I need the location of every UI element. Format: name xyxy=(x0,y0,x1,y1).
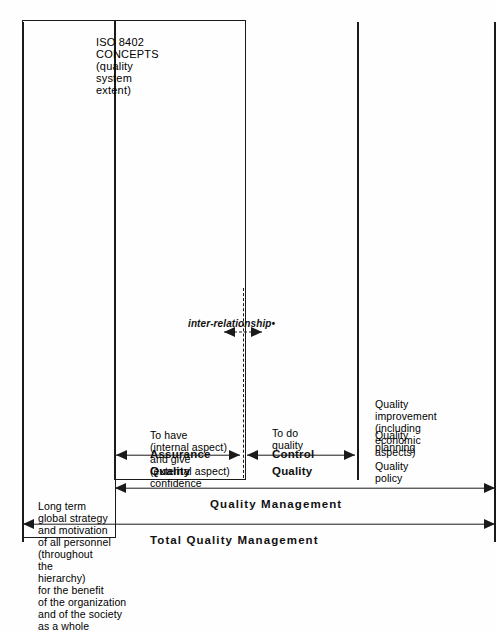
quality-control-text: To do quality xyxy=(272,427,303,451)
outer-frame-bottom-rule xyxy=(494,22,496,542)
tqm-content-text: Long term global strategy and motivation… xyxy=(38,500,126,632)
total-quality-management-label: Total Quality Management xyxy=(150,534,319,548)
quality-policy-text: Quality policy xyxy=(375,460,408,484)
inter-relationship-label: inter-relationship• xyxy=(188,318,275,330)
quality-improvement-text: Quality improvement (including economic … xyxy=(375,398,437,458)
iso-8402-caption: ISO 8402 CONCEPTS (quality system extent… xyxy=(96,36,159,96)
total-quality-management-content-box xyxy=(22,20,116,538)
quality-control-title-line1: Quality xyxy=(272,465,312,479)
quality-assurance-text: To have (internal aspect) and give (exte… xyxy=(150,429,230,489)
qa-qc-dashed-separator xyxy=(243,288,244,478)
quality-management-label: Quality Management xyxy=(210,498,342,512)
qc-concepts-divider-rule xyxy=(357,22,359,480)
